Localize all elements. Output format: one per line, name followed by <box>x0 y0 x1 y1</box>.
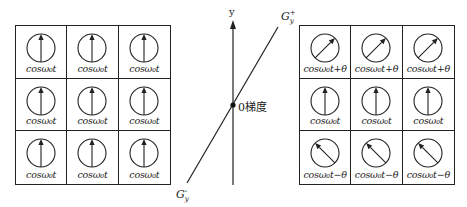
right-grid-cell: cosω₀t−θ <box>403 131 454 184</box>
gradient-plus-sup: + <box>290 9 296 17</box>
phase-label: cosω₀t−θ <box>403 169 454 180</box>
phase-label: cosω₀t <box>351 115 401 126</box>
phase-label: cosω₀t+θ <box>403 63 454 74</box>
right-grid-cell: cosω₀t−θ <box>351 131 402 184</box>
zero-gradient-label: 0梯度 <box>238 98 267 114</box>
phase-label: cosω₀t+θ <box>300 63 350 74</box>
right-grid-cell: cosω₀t <box>351 79 402 132</box>
right-grid-cell: cosω₀t−θ <box>300 131 351 184</box>
phasor-icon <box>309 85 341 117</box>
right-grid-cell: cosω₀t <box>300 79 351 132</box>
gradient-minus-label: Gy- <box>176 187 187 203</box>
y-axis-label: y <box>229 6 235 17</box>
phasor-icon <box>412 137 444 169</box>
gradient-plus-sub: y <box>290 17 294 25</box>
phase-label: cosω₀t+θ <box>351 63 401 74</box>
gradient-minus-letter: G <box>176 188 185 201</box>
y-axis-arrow-icon <box>230 20 236 29</box>
phase-label: cosω₀t−θ <box>351 169 401 180</box>
phasor-icon <box>360 32 392 64</box>
phasor-icon <box>412 85 444 117</box>
phasor-icon <box>360 137 392 169</box>
phasor-icon <box>412 32 444 64</box>
phase-label: cosω₀t <box>403 115 454 126</box>
right-grid-cell: cosω₀t+θ <box>403 26 454 79</box>
right-grid-cell: cosω₀t <box>403 79 454 132</box>
phasor-icon <box>360 85 392 117</box>
gradient-minus-sub: y <box>185 195 189 203</box>
phasor-icon <box>309 137 341 169</box>
right-phasor-grid: cosω₀t+θcosω₀t+θcosω₀t+θcosω₀tcosω₀tcosω… <box>299 25 455 185</box>
phase-label: cosω₀t−θ <box>300 169 350 180</box>
right-grid-cell: cosω₀t+θ <box>351 26 402 79</box>
phase-label: cosω₀t <box>300 115 350 126</box>
gradient-plus-letter: G <box>281 10 290 23</box>
gradient-minus-sup: - <box>185 187 187 195</box>
zero-gradient-point <box>230 102 235 107</box>
right-grid-cell: cosω₀t+θ <box>300 26 351 79</box>
phasor-icon <box>309 32 341 64</box>
gradient-plus-label: Gy+ <box>281 9 296 25</box>
